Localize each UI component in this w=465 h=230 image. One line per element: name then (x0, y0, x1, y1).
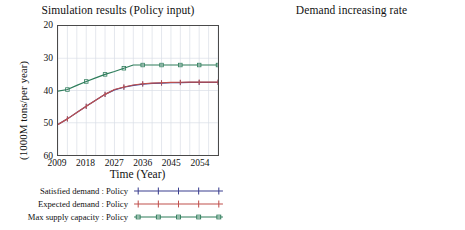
y-tick-label: 30 (31, 53, 53, 63)
legend-swatch (132, 211, 225, 223)
x-tick-label: 2027 (105, 158, 124, 168)
x-tick-label: 2036 (133, 158, 152, 168)
x-tick-label: 2009 (48, 158, 67, 168)
legend-item[interactable]: Max supply capacity : Policy (20, 210, 225, 223)
legend-item-label: Max supply capacity : Policy (20, 212, 132, 222)
y-tick-label: 40 (31, 86, 53, 96)
plot-area-left (57, 25, 219, 156)
y-axis-label-left: (1000M tons/per year) (17, 61, 29, 160)
y-tick-label: 50 (31, 118, 53, 128)
x-tick-label: 2045 (162, 158, 181, 168)
legend-item-label: Satisfied demand : Policy (20, 186, 132, 196)
plot-svg-left (58, 26, 218, 155)
legend-item[interactable]: Expected demand : Policy (20, 197, 225, 210)
chart-panel-demand-increasing-rate: Demand increasing rate (1000M tons/per y… (232, 0, 465, 230)
legend-swatch (132, 198, 225, 210)
legend-item[interactable]: Satisfied demand : Policy (20, 184, 225, 197)
x-tick-label: 2054 (190, 158, 209, 168)
figure-two-charts: Simulation results (Policy input) (1000M… (0, 0, 465, 230)
legend-swatch (132, 185, 225, 197)
chart-panel-simulation-results: Simulation results (Policy input) (1000M… (0, 0, 232, 230)
legend-left: Satisfied demand : Policy Expected deman… (20, 184, 225, 223)
chart-title-left: Simulation results (Policy input) (8, 4, 228, 16)
x-tick-label: 2018 (76, 158, 95, 168)
y-tick-label: 20 (31, 20, 53, 30)
legend-item-label: Expected demand : Policy (20, 199, 132, 209)
chart-title-right: Demand increasing rate (242, 4, 461, 16)
x-axis-label-left: Time (Year) (55, 168, 220, 180)
